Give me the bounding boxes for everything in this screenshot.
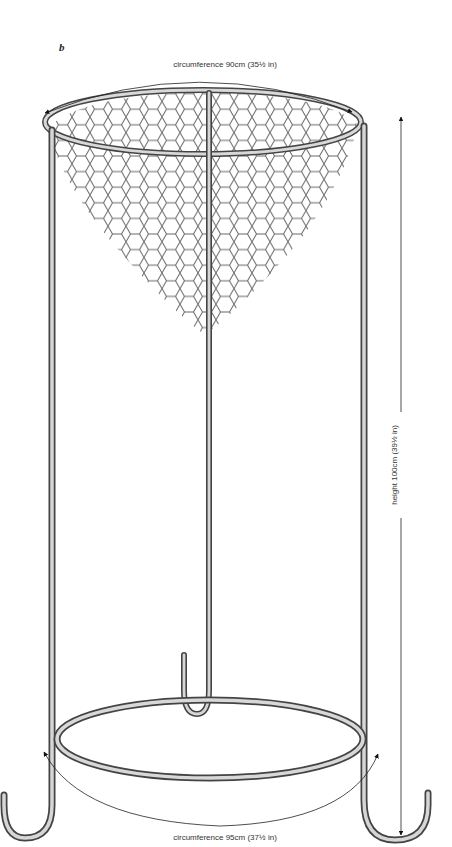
bottom-ring [57, 700, 363, 778]
chicken-wire-cone [48, 92, 358, 335]
stand-illustration [0, 0, 452, 847]
panel-label: b [59, 41, 65, 53]
top-circumference-label: circumference 90cm (35½ in) [150, 60, 300, 69]
height-label: height 100cm (39½ in) [390, 425, 399, 505]
left-leg [4, 130, 52, 838]
bottom-circumference-label: circumference 95cm (37½ in) [140, 833, 310, 842]
